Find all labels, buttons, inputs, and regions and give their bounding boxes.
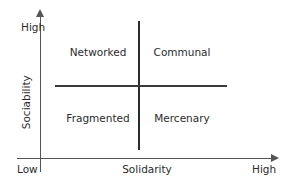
quadrant-label-communal: Communal	[146, 47, 218, 58]
culture-matrix-diagram: Networked Communal Fragmented Mercenary …	[0, 0, 291, 190]
x-axis-title: Solidarity	[97, 164, 197, 175]
quadrant-divider-horizontal	[55, 85, 227, 87]
x-axis-low-label: Low	[17, 164, 38, 175]
y-axis-arrow-icon	[36, 9, 44, 17]
y-axis-title: Sociability	[21, 52, 32, 152]
x-axis-line	[17, 158, 273, 159]
x-axis-arrow-icon	[271, 154, 279, 162]
y-axis-high-label: High	[21, 22, 45, 33]
quadrant-label-mercenary: Mercenary	[146, 113, 218, 124]
quadrant-label-networked: Networked	[62, 47, 134, 58]
x-axis-high-label: High	[252, 164, 276, 175]
quadrant-label-fragmented: Fragmented	[62, 113, 134, 124]
y-axis-line	[40, 15, 41, 172]
